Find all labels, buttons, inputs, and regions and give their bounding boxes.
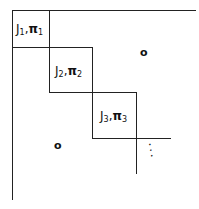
lower-zero-label: o xyxy=(54,139,62,152)
block-diagonal-diagram: J1,π1 J2,π2 J3,π3 o o ⋱ xyxy=(0,0,199,209)
upper-zero-label: o xyxy=(140,46,148,59)
continuation-dots: ⋱ xyxy=(142,141,160,159)
block1-label: J1,π1 xyxy=(16,22,43,37)
top-border-line xyxy=(12,10,196,11)
block3-bottom-line xyxy=(92,138,171,139)
block2-label: J2,π2 xyxy=(55,64,82,79)
block2-bottom-line xyxy=(49,92,136,93)
left-border-line xyxy=(12,10,13,200)
block1-right-line xyxy=(49,10,50,92)
block3-right-line xyxy=(136,92,137,174)
block3-label: J3,π3 xyxy=(100,109,127,124)
block1-bottom-line xyxy=(12,47,92,48)
